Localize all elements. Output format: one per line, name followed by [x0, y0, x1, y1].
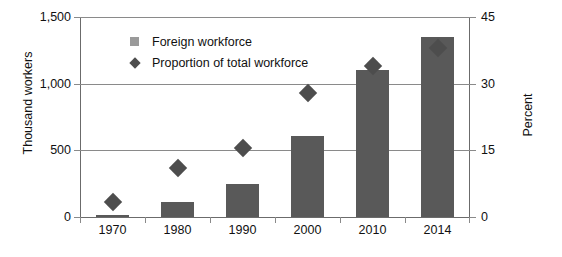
- y-axis-left-tick: [74, 17, 80, 18]
- y-axis-right-tick: [469, 217, 476, 218]
- chart-container: Thousand workers Percent 05001,0001,500 …: [0, 0, 562, 257]
- y-axis-right-tick-label: 0: [481, 210, 488, 224]
- x-axis-tick-label: 1990: [229, 223, 257, 237]
- data-marker-diamond: [233, 139, 251, 157]
- gridline: [80, 150, 470, 151]
- bar: [226, 184, 259, 217]
- bar: [96, 215, 129, 217]
- x-axis-tick-label: 1970: [99, 223, 127, 237]
- bar: [421, 37, 454, 217]
- x-axis-tick: [469, 217, 470, 223]
- legend-label-proportion: Proportion of total workforce: [152, 56, 308, 70]
- y-axis-right-tick: [469, 150, 476, 151]
- gridline: [80, 17, 470, 18]
- gridline: [80, 84, 470, 85]
- bar: [161, 202, 194, 217]
- y-axis-left-line: [80, 17, 81, 218]
- bar: [291, 136, 324, 217]
- x-axis-tick-label: 1980: [164, 223, 192, 237]
- bar: [356, 70, 389, 217]
- y-axis-right-line: [469, 17, 470, 218]
- y-axis-right-tick-label: 30: [481, 77, 495, 91]
- y-axis-left-tick: [74, 84, 80, 85]
- y-axis-left-tick-label: 0: [64, 210, 71, 224]
- data-marker-diamond: [168, 159, 186, 177]
- y-axis-left-tick-label: 1,500: [40, 10, 71, 24]
- y-axis-right-title: Percent: [521, 55, 535, 175]
- chart-legend: Foreign workforce Proportion of total wo…: [130, 31, 308, 73]
- legend-item-foreign-workforce: Foreign workforce: [130, 31, 308, 52]
- x-axis-tick: [275, 217, 276, 223]
- x-axis-tick-label: 2010: [359, 223, 387, 237]
- x-axis-tick-label: 2014: [424, 223, 452, 237]
- y-axis-left-title: Thousand workers: [21, 23, 35, 183]
- x-axis-tick: [145, 217, 146, 223]
- x-axis-tick: [80, 217, 81, 223]
- x-axis-tick: [405, 217, 406, 223]
- data-marker-diamond: [103, 193, 121, 211]
- x-axis-tick: [340, 217, 341, 223]
- y-axis-left-tick-label: 500: [50, 143, 71, 157]
- y-axis-right-tick: [469, 17, 476, 18]
- x-axis-tick: [210, 217, 211, 223]
- x-axis-tick-label: 2000: [294, 223, 322, 237]
- legend-square-icon: [130, 37, 152, 46]
- y-axis-right-tick: [469, 84, 476, 85]
- y-axis-right-tick-label: 45: [481, 10, 495, 24]
- legend-label-foreign-workforce: Foreign workforce: [152, 35, 252, 49]
- data-marker-diamond: [298, 83, 316, 101]
- legend-item-proportion: Proportion of total workforce: [130, 52, 308, 73]
- y-axis-left-tick: [74, 150, 80, 151]
- y-axis-left-tick-label: 1,000: [40, 77, 71, 91]
- y-axis-right-tick-label: 15: [481, 143, 495, 157]
- legend-diamond-icon: [130, 59, 152, 67]
